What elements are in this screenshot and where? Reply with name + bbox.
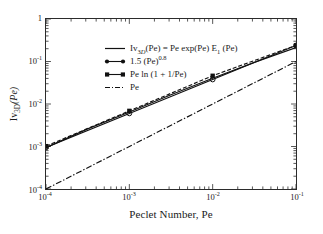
y-title-sub: 3D [14,104,22,113]
legend-label-pe: Pe [130,83,139,92]
y-title-main: Iv [8,113,19,121]
legend-key-circle-marker-icon [104,56,126,67]
x-axis-tick-labels: 10-410-310-210-1 [45,193,297,207]
y-title-tail: (Pe) [8,87,19,104]
legend-key-square-marker-icon [104,69,126,80]
x-axis-title: Peclet Number, Pe [45,208,297,220]
plot-area: Iv3D(Pe) = Pe exp(Pe) E1 (Pe) 1.5 (Pe)0.… [45,18,297,190]
legend-item-power-law: 1.5 (Pe)0.8 [104,56,319,68]
legend-item-log-form: Pe ln (1 + 1/Pe) [104,69,319,81]
legend-item-iv3d: Iv3D(Pe) = Pe exp(Pe) E1 (Pe) [104,43,319,55]
y-tick-label: 10-3 [28,143,42,152]
chart-legend: Iv3D(Pe) = Pe exp(Pe) E1 (Pe) 1.5 (Pe)0.… [104,43,319,95]
legend-key-solid-line-icon [104,43,126,54]
y-axis-title: Iv3D(Pe) [8,61,22,147]
y-tick-label: 1 [38,14,42,23]
y-tick-label: 10-1 [28,57,42,66]
legend-key-dashdot-line-icon [104,82,126,93]
x-tick-label: 10-3 [122,193,136,202]
figure-log-log-chart: 110-110-210-310-4 Iv3D(Pe) Iv3D(Pe) = Pe… [0,0,323,234]
y-tick-label: 10-2 [28,100,42,109]
legend-label-iv3d: Iv3D(Pe) = Pe exp(Pe) E1 (Pe) [130,44,237,53]
x-tick-label: 10-1 [290,193,304,202]
x-tick-label: 10-4 [38,193,52,202]
legend-label-log-form: Pe ln (1 + 1/Pe) [130,70,187,79]
legend-item-pe: Pe [104,82,319,94]
legend-label-power-law: 1.5 (Pe)0.8 [130,57,167,66]
y-axis-title-text: Iv3D(Pe) [8,87,19,121]
x-tick-label: 10-2 [206,193,220,202]
